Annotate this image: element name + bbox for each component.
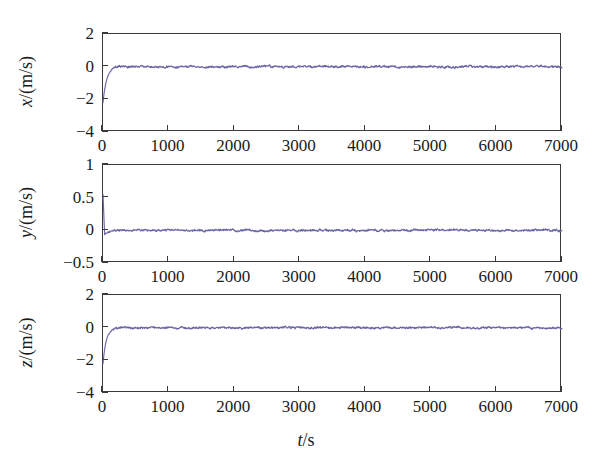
velocity-error-figure: 20−2−401000200030004000500060007000x/(m/… [0, 0, 612, 463]
data-line-z [103, 295, 562, 393]
x-tick-label: 2000 [216, 398, 250, 415]
y-tick-mark [102, 359, 108, 360]
x-tick-mark [364, 386, 365, 392]
x-tick-label: 3000 [282, 398, 316, 415]
x-tick-label: 4000 [347, 398, 381, 415]
x-tick-label: 7000 [544, 398, 578, 415]
x-axis-label: t/s [0, 430, 612, 451]
x-tick-mark [233, 386, 234, 392]
y-tick-mark [102, 391, 108, 392]
plot-area-z [102, 294, 561, 392]
x-tick-mark [298, 386, 299, 392]
y-tick-mark [102, 293, 108, 294]
x-tick-label: 1000 [151, 398, 185, 415]
y-axis-label-z: z/(m/s) [16, 283, 37, 403]
x-tick-label: 0 [98, 398, 107, 415]
panel-z-velocity: 20−2−401000200030004000500060007000z/(m/… [0, 0, 612, 463]
y-tick-mark [102, 326, 108, 327]
x-tick-mark [167, 386, 168, 392]
x-tick-mark [495, 386, 496, 392]
x-tick-mark [101, 386, 102, 392]
x-tick-mark [560, 386, 561, 392]
x-tick-mark [429, 386, 430, 392]
x-tick-label: 6000 [478, 398, 512, 415]
x-tick-label: 5000 [413, 398, 447, 415]
